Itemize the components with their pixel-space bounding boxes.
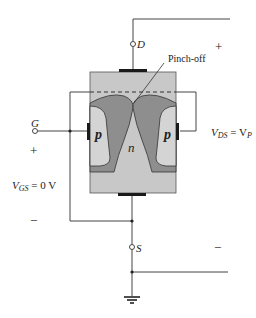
ground-icon [124,297,140,303]
jfet-diagram: D Pinch-off G S p p n + − + − VGS = 0 V … [0,0,256,318]
p-left-label: p [94,127,102,142]
source-junction-dot [130,219,133,222]
gate-terminal [33,129,38,134]
pinch-off-label: Pinch-off [168,53,206,64]
drain-terminal [131,42,136,47]
drain-label: D [136,38,145,50]
vds-label: VDS = VP [211,126,252,140]
minus-right: − [214,240,221,255]
plus-left: + [30,143,37,158]
gate-contact-left [87,123,90,140]
plus-right: + [215,39,222,54]
gate-label: G [31,117,39,129]
source-contact [118,193,146,196]
source-terminal [130,245,135,250]
minus-left: − [30,213,37,228]
vgs-label: VGS = 0 V [12,179,56,193]
gate-junction-dot [68,129,71,132]
drain-contact [119,69,147,72]
drain-top-wire [133,19,230,41]
gate-contact-right [176,123,179,140]
n-channel-label: n [128,140,135,155]
p-right-label: p [163,127,171,142]
source-label: S [136,242,142,254]
ground-junction-dot [130,270,133,273]
